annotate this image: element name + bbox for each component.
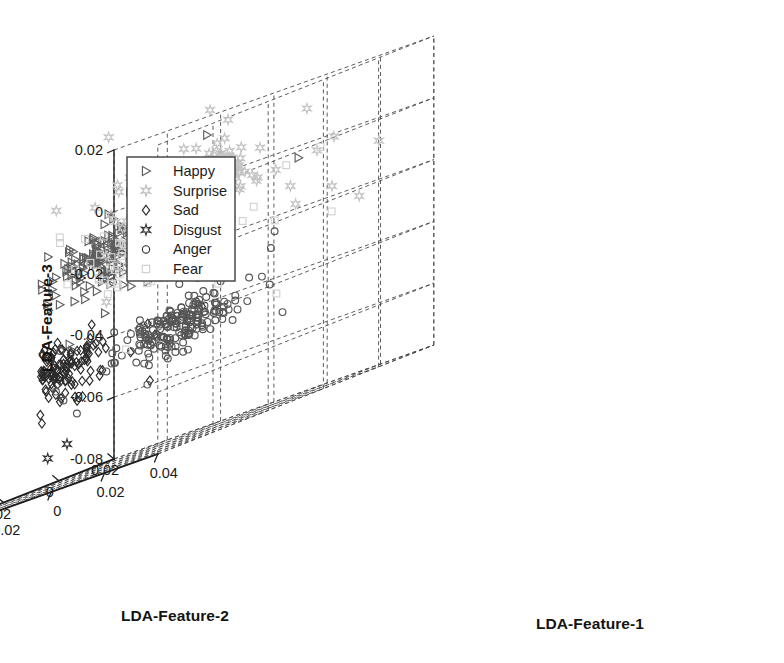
data-point <box>45 393 52 402</box>
data-point <box>71 297 79 305</box>
tick-z <box>107 150 114 153</box>
tick-z <box>107 397 114 400</box>
data-point <box>133 359 140 366</box>
z-tick-label: -0.02 <box>70 266 103 282</box>
legend-item-happy[interactable]: Happy <box>128 162 234 180</box>
legend-label: Sad <box>173 202 199 218</box>
data-point <box>104 132 113 142</box>
data-point <box>180 339 187 346</box>
data-point <box>86 376 93 385</box>
data-point <box>127 331 134 338</box>
z-tick-label: -0.06 <box>70 389 103 405</box>
data-point <box>259 273 266 280</box>
data-point <box>229 317 236 324</box>
grid-floor-x2 <box>0 410 268 524</box>
legend-item-anger[interactable]: Anger <box>128 240 234 258</box>
data-point <box>239 218 246 225</box>
data-point <box>63 439 72 449</box>
data-point <box>328 208 335 215</box>
legend-label: Disgust <box>173 222 221 238</box>
data-point <box>266 281 273 288</box>
data-point <box>93 287 101 295</box>
data-point <box>250 203 257 210</box>
data-point <box>237 142 246 152</box>
data-point <box>328 181 337 191</box>
legend[interactable]: HappySurpriseSadDisgustAngerFear <box>127 157 235 281</box>
data-point <box>234 306 241 313</box>
data-point <box>104 291 111 298</box>
series-disgust <box>43 439 71 463</box>
data-point <box>355 191 364 201</box>
x2-tick-label: 0 <box>46 484 54 500</box>
data-point <box>137 317 144 324</box>
legend-label: Surprise <box>173 183 227 199</box>
data-point <box>86 282 94 290</box>
data-point <box>102 309 110 317</box>
data-point <box>283 162 290 169</box>
tick-x2 <box>52 475 59 481</box>
data-point <box>141 360 148 367</box>
data-point <box>95 348 102 357</box>
legend-label: Anger <box>173 241 212 257</box>
data-point <box>103 368 110 375</box>
plot-canvas: 0.020-0.02-0.04-0.06-0.080.020-0.02-0.04… <box>0 0 784 663</box>
data-point <box>286 181 295 191</box>
data-point <box>74 410 81 417</box>
x2-tick-label: -0.02 <box>0 506 11 522</box>
legend-item-surprise[interactable]: Surprise <box>128 182 234 200</box>
tick-x2 <box>0 497 4 503</box>
data-point <box>192 143 201 153</box>
data-point <box>52 206 61 216</box>
axis-title-feature-1: LDA-Feature-1 <box>536 615 644 632</box>
data-point <box>206 105 215 115</box>
legend-item-fear[interactable]: Fear <box>128 260 234 278</box>
grid-lines <box>0 36 434 568</box>
data-point <box>56 301 64 309</box>
x1-tick-label: 0 <box>53 503 61 519</box>
legend-label: Fear <box>173 261 203 277</box>
z-tick-label: 0 <box>95 204 103 220</box>
data-point <box>279 309 286 316</box>
data-point <box>45 253 53 261</box>
data-point <box>43 453 52 463</box>
series-sad <box>37 302 206 428</box>
axis-titles: LDA-Feature-3LDA-Feature-2LDA-Feature-1 <box>38 264 644 632</box>
data-point <box>102 297 111 307</box>
data-point <box>87 366 94 375</box>
lda-3d-scatter-plot: 0.020-0.02-0.04-0.06-0.080.020-0.02-0.04… <box>0 0 784 663</box>
data-point <box>271 228 278 235</box>
grid-wallR-horz <box>158 345 434 454</box>
z-tick-label: -0.04 <box>70 327 103 343</box>
x2-tick-label: 0.02 <box>91 462 119 478</box>
data-point <box>82 295 90 303</box>
data-point <box>124 337 131 344</box>
data-point <box>271 165 280 175</box>
data-point <box>204 131 212 139</box>
grid-floor-x1 <box>105 364 381 473</box>
data-point <box>295 154 303 162</box>
axis-title-feature-2: LDA-Feature-2 <box>121 607 229 624</box>
grid-floor-x2 <box>0 454 158 568</box>
data-point <box>64 281 71 288</box>
z-tick-label: 0.02 <box>75 142 103 158</box>
data-point <box>146 362 153 369</box>
data-point <box>101 220 109 228</box>
data-point <box>303 103 312 113</box>
data-point <box>203 294 210 301</box>
grid-wallR-horz <box>158 36 434 145</box>
data-point <box>246 274 253 281</box>
legend-item-sad[interactable]: Sad <box>128 201 234 219</box>
x1-tick-label: -0.02 <box>0 522 20 538</box>
data-point <box>244 298 251 305</box>
data-point <box>128 282 136 290</box>
data-point <box>39 419 46 428</box>
legend-item-disgust[interactable]: Disgust <box>128 221 234 239</box>
data-point <box>79 376 86 385</box>
tick-x2 <box>108 454 115 460</box>
data-point <box>330 132 339 142</box>
data-point <box>180 144 189 154</box>
x1-tick-label: 0.04 <box>150 465 178 481</box>
data-point <box>115 187 124 197</box>
data-point <box>224 115 233 125</box>
legend-label: Happy <box>173 163 216 179</box>
